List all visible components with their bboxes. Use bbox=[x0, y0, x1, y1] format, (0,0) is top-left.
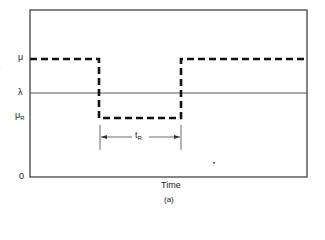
tr-arrowhead-left-icon bbox=[101, 135, 107, 139]
y-tick-mu-r: μR bbox=[15, 111, 25, 123]
y-tick-mu-r-sub: R bbox=[20, 115, 24, 121]
figure-caption: (a) bbox=[164, 195, 174, 204]
tr-arrowhead-right-icon bbox=[174, 135, 180, 139]
x-axis-title: Time bbox=[161, 181, 181, 190]
y-tick-lambda: λ bbox=[18, 88, 23, 97]
y-tick-zero: 0 bbox=[19, 172, 24, 181]
tr-label-sub: R bbox=[138, 135, 142, 141]
speck-artifact bbox=[213, 162, 215, 164]
service-rate-dashed-line bbox=[30, 59, 307, 118]
tr-label: tR bbox=[135, 131, 142, 143]
y-tick-mu: μ bbox=[18, 53, 23, 62]
